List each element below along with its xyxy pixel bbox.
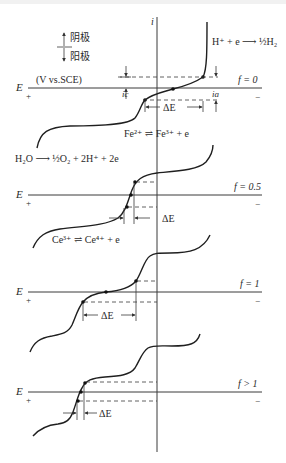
units-label: (V vs.SCE) <box>36 74 82 86</box>
f-label: f = 1 <box>240 278 260 289</box>
delta-e-label: ΔE <box>163 102 176 113</box>
delta-e-label: ΔE <box>99 408 112 419</box>
panel-f0: E + − (V vs.SCE) f = 0 ic ia ΔE H⁺ + e ⟶… <box>15 22 277 148</box>
panel-f05: E + − f = 0.5 ΔE H₂O ⟶ ½O₂ + 2H⁺ + 2e Ce… <box>15 145 262 248</box>
minus-sign: − <box>255 92 260 102</box>
ia-label: ia <box>212 89 220 99</box>
panel-f-gt1: E + − f > 1 ΔE <box>15 334 262 436</box>
reaction-cerium: Ce³⁺ ⇌ Ce⁴⁺ + e <box>52 234 120 245</box>
point-marker <box>79 390 83 394</box>
minus-sign: − <box>255 396 260 406</box>
ic-label: ic <box>122 89 129 99</box>
reaction-hydrogen: H⁺ + e ⟶ ½H₂ <box>212 36 277 47</box>
plus-sign: + <box>26 395 31 405</box>
e-axis-label: E <box>15 188 23 200</box>
reaction-iron: Fe²⁺ ⇌ Fe³⁺ + e <box>124 128 190 139</box>
anode-label: 阳极 <box>70 50 90 62</box>
plus-sign: + <box>26 198 31 208</box>
f-label: f > 1 <box>238 378 258 389</box>
point-marker <box>171 87 175 91</box>
panel-f1: E + − f = 1 ΔE <box>15 235 262 352</box>
cathode-label: 阴极 <box>70 31 90 43</box>
e-axis-label: E <box>15 81 23 93</box>
minus-sign: − <box>255 296 260 306</box>
cropped-top-strip <box>0 0 286 4</box>
delta-e-label: ΔE <box>101 310 114 321</box>
point-marker <box>104 290 108 294</box>
f-label: f = 0 <box>238 74 258 85</box>
plus-sign: + <box>26 91 31 101</box>
plus-sign: + <box>26 295 31 305</box>
polarization-titration-diagram: 阴极 阳极 i E + − (V vs.SCE) f = 0 ic ia ΔE … <box>0 0 286 463</box>
point-marker <box>129 193 133 197</box>
minus-sign: − <box>255 199 260 209</box>
delta-e-label: ΔE <box>162 213 175 224</box>
e-axis-label: E <box>15 385 23 397</box>
titration-curve <box>30 235 210 352</box>
titration-curve <box>33 334 200 436</box>
reaction-water-oxidation: H₂O ⟶ ½O₂ + 2H⁺ + 2e <box>15 153 119 164</box>
current-axis-label: i <box>151 16 154 27</box>
f-label: f = 0.5 <box>234 181 261 192</box>
cathode-anode-indicator: 阴极 阳极 <box>57 31 90 62</box>
e-axis-label: E <box>15 285 23 297</box>
